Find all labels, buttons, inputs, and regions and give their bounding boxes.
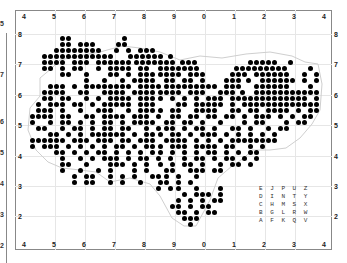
record-dot <box>218 120 223 125</box>
record-dot <box>278 108 283 113</box>
record-dot <box>108 90 113 95</box>
record-dot <box>212 84 217 89</box>
record-dot <box>126 150 131 155</box>
record-dot <box>90 156 95 161</box>
record-dot <box>194 168 199 173</box>
record-dot <box>266 96 271 101</box>
record-dot <box>260 114 265 119</box>
record-dot <box>248 108 253 113</box>
record-dot <box>200 108 205 113</box>
record-dot <box>60 72 65 77</box>
record-dot <box>54 144 59 149</box>
record-dot <box>120 180 125 185</box>
record-dot <box>260 132 265 137</box>
record-dot <box>200 168 205 173</box>
record-dot <box>60 36 65 41</box>
record-dot <box>200 90 205 95</box>
record-dot <box>102 120 107 125</box>
record-dot <box>60 96 65 101</box>
record-dot <box>254 96 259 101</box>
record-dot <box>102 60 107 65</box>
record-dot <box>240 90 245 95</box>
record-dot <box>302 78 307 83</box>
record-dot <box>176 108 181 113</box>
record-dot <box>48 60 53 65</box>
record-dot <box>314 108 319 113</box>
record-dot <box>30 114 35 119</box>
record-dot <box>254 102 259 107</box>
record-dot <box>260 144 265 149</box>
record-dot <box>206 108 211 113</box>
record-dot <box>116 42 121 47</box>
record-dot <box>188 168 193 173</box>
record-dot <box>258 66 263 71</box>
axis-label: 3 <box>334 183 338 190</box>
record-dot <box>272 108 277 113</box>
record-dot <box>84 138 89 143</box>
record-dot <box>170 60 175 65</box>
record-dot <box>170 168 175 173</box>
axis-label: 4 <box>322 241 326 248</box>
record-dot <box>164 168 169 173</box>
record-dot <box>120 132 125 137</box>
record-dot <box>242 156 247 161</box>
record-dot <box>128 54 133 59</box>
record-dot <box>114 156 119 161</box>
record-dot <box>108 120 113 125</box>
record-dot <box>242 72 247 77</box>
record-dot <box>108 108 113 113</box>
record-dot <box>164 78 169 83</box>
record-dot <box>194 90 199 95</box>
record-dot <box>282 66 287 71</box>
record-dot <box>66 96 71 101</box>
record-dot <box>254 108 259 113</box>
record-dot <box>42 54 47 59</box>
record-dot <box>194 114 199 119</box>
record-dot <box>36 138 41 143</box>
record-dot <box>102 150 107 155</box>
record-dot <box>120 114 125 119</box>
record-dot <box>72 66 77 71</box>
record-dot <box>84 42 89 47</box>
record-dot <box>150 102 155 107</box>
record-dot <box>66 132 71 137</box>
record-dot <box>176 132 181 137</box>
record-dot <box>114 162 119 167</box>
record-dot <box>140 54 145 59</box>
record-dot <box>60 168 65 173</box>
record-dot <box>60 120 65 125</box>
record-dot <box>252 66 257 71</box>
record-dot <box>266 60 271 65</box>
record-dot <box>120 102 125 107</box>
record-dot <box>42 90 47 95</box>
record-dot <box>206 96 211 101</box>
record-dot <box>72 174 77 179</box>
record-dot <box>176 66 181 71</box>
record-dot <box>200 192 205 197</box>
record-dot <box>132 168 137 173</box>
record-dot <box>102 78 107 83</box>
record-dot <box>254 84 259 89</box>
record-dot <box>194 150 199 155</box>
record-dot <box>242 96 247 101</box>
record-dot <box>108 174 113 179</box>
record-dot <box>132 162 137 167</box>
record-dot <box>84 162 89 167</box>
record-dot <box>114 60 119 65</box>
record-dot <box>218 96 223 101</box>
record-dot <box>200 84 205 89</box>
record-dot <box>138 72 143 77</box>
record-dot <box>60 156 65 161</box>
tetrad-key-row: D I N T Y <box>259 193 309 201</box>
record-dot <box>102 54 107 59</box>
record-dot <box>90 102 95 107</box>
record-dot <box>200 156 205 161</box>
record-dot <box>96 84 101 89</box>
record-dot <box>78 144 83 149</box>
record-dot <box>248 162 253 167</box>
record-dot <box>144 120 149 125</box>
record-dot <box>164 84 169 89</box>
axis-label: 5 <box>18 122 22 129</box>
record-dot <box>260 78 265 83</box>
record-dot <box>194 210 199 215</box>
